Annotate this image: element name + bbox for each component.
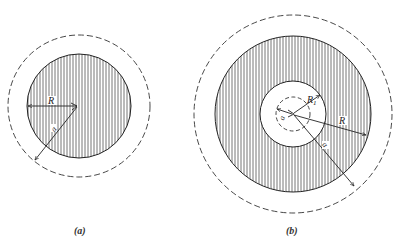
- panel-a: R a (a): [8, 35, 150, 237]
- radius-R-label: R: [47, 95, 54, 106]
- panel-b: R1 a R a (b): [194, 15, 392, 237]
- caption-b: (b): [286, 225, 298, 237]
- caption-a: (a): [74, 225, 86, 237]
- radius-R-label: R: [338, 115, 345, 126]
- figure: R a (a) R1 a R a (b): [0, 0, 399, 244]
